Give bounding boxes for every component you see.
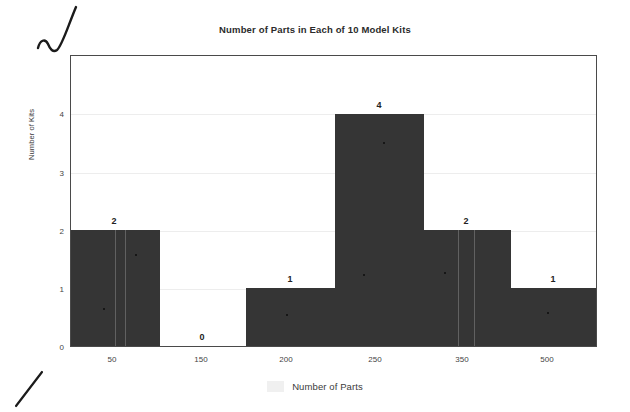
y-tick-label-3: 3 — [40, 169, 64, 178]
bar-500 — [511, 288, 596, 346]
y-axis-title: Number of Kits — [27, 75, 36, 195]
plot-area — [70, 55, 597, 347]
bar-350 — [424, 230, 511, 346]
x-tick-label-500: 500 — [540, 355, 553, 364]
legend-label: Number of Parts — [292, 381, 363, 392]
y-tick-label-1: 1 — [40, 285, 64, 294]
chart-title: Number of Parts in Each of 10 Model Kits — [0, 24, 630, 35]
bar-value-label-350: 2 — [463, 216, 468, 226]
bar-value-label-250: 4 — [376, 100, 381, 110]
legend: Number of Parts — [0, 381, 630, 392]
bar-value-label-50: 2 — [111, 216, 116, 226]
bar-250 — [335, 114, 424, 346]
bar-200 — [246, 288, 335, 346]
legend-swatch — [267, 381, 284, 392]
y-tick-label-2: 2 — [40, 227, 64, 236]
x-tick-label-50: 50 — [108, 355, 117, 364]
bar-50 — [71, 230, 160, 346]
y-tick-label-4: 4 — [40, 110, 64, 119]
handwritten-slash-mark-icon — [12, 368, 62, 412]
gridline-4 — [71, 114, 596, 115]
handwritten-check-mark-icon — [36, 4, 80, 62]
x-tick-label-350: 350 — [455, 355, 468, 364]
x-tick-label-200: 200 — [279, 355, 292, 364]
y-tick-label-0: 0 — [40, 343, 64, 352]
x-tick-label-250: 250 — [368, 355, 381, 364]
bar-value-label-200: 1 — [287, 274, 292, 284]
bar-value-label-150: 0 — [199, 332, 204, 342]
gridline-3 — [71, 173, 596, 174]
x-tick-label-150: 150 — [194, 355, 207, 364]
histogram-figure: Number of Parts in Each of 10 Model Kits… — [0, 0, 630, 412]
bar-value-label-500: 1 — [550, 274, 555, 284]
